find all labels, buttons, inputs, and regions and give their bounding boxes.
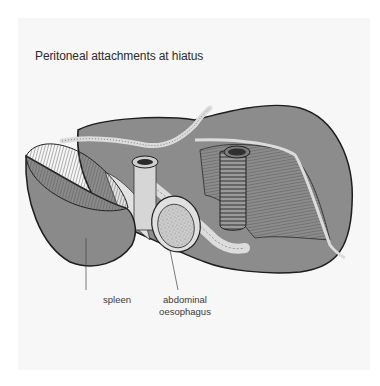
label-oesophagus-line2: oesophagus [150, 306, 220, 318]
aorta-tube [220, 146, 250, 230]
label-spleen: spleen [92, 294, 142, 306]
label-spleen-text: spleen [103, 294, 131, 305]
label-oesophagus-line1: abdominal [150, 294, 220, 306]
oesophagus-leader-line [170, 250, 178, 290]
label-abdominal-oesophagus: abdominal oesophagus [150, 294, 220, 318]
anatomy-illustration [0, 0, 380, 386]
